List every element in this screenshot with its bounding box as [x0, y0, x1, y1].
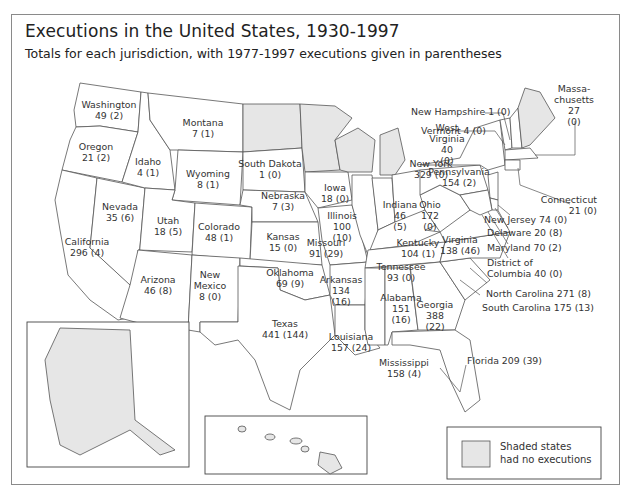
state-label-line: 100	[333, 221, 351, 232]
state-label-line: Florida 209 (39)	[467, 355, 542, 366]
state-label-line: chusetts	[554, 94, 594, 105]
state-label-line: 1 (0)	[259, 169, 281, 180]
state-label-line: Idaho	[135, 156, 161, 167]
state-label-line: 138 (46)	[440, 245, 480, 256]
state-label-line: 296 (4)	[70, 247, 104, 258]
state-label-line: 8 (0)	[199, 291, 221, 302]
state-label-line: Oklahoma	[266, 267, 314, 278]
state-label-line: Delaware 20 (8)	[487, 227, 562, 238]
state-label-line: Illinois	[327, 210, 357, 221]
state-label-line: South Carolina 175 (13)	[482, 302, 594, 313]
state-label-line: 151	[392, 303, 410, 314]
legend-line-1: Shaded states	[500, 440, 592, 453]
state-label-line: 8 (1)	[197, 179, 219, 190]
state-label-arizona: Arizona46 (8)	[140, 274, 175, 296]
state-label-line: 157 (24)	[331, 342, 371, 353]
state-label-line: 4 (1)	[137, 167, 159, 178]
state-label-new-york: New York329 (0)	[410, 158, 453, 180]
state-label-line: 93 (0)	[387, 272, 415, 283]
legend-label: Shaded states had no executions	[500, 440, 592, 466]
state-label-line: 329 (0)	[414, 169, 448, 180]
state-label-line: 15 (0)	[269, 242, 297, 253]
state-label-oregon: Oregon21 (2)	[79, 141, 113, 163]
state-label-line: 48 (1)	[205, 232, 233, 243]
state-label-line: South Dakota	[238, 158, 301, 169]
state-label-line: 104 (1)	[401, 248, 435, 259]
state-label-line: Wyoming	[186, 168, 230, 179]
state-label-line: 27	[568, 105, 580, 116]
state-label-line: Arkansas	[320, 274, 363, 285]
state-label-line: Georgia	[417, 299, 454, 310]
state-label-idaho: Idaho4 (1)	[135, 156, 161, 178]
state-label-nevada: Nevada35 (6)	[102, 201, 138, 223]
us-map: Washington49 (2)Oregon21 (2)Idaho4 (1)Mo…	[0, 0, 630, 496]
state-label-line: 46	[394, 210, 406, 221]
legend-line-2: had no executions	[500, 453, 592, 466]
state-michigan	[380, 128, 405, 175]
state-label-line: 21 (2)	[82, 152, 110, 163]
state-label-line: Washington	[81, 99, 136, 110]
state-label-north-carolina: North Carolina 271 (8)	[486, 288, 591, 299]
state-label-line: Arizona	[140, 274, 175, 285]
state-label-line: Connecticut	[541, 194, 597, 205]
state-label-line: Virginia	[442, 234, 477, 245]
state-label-line: 388	[426, 310, 444, 321]
state-label-district-of-columbia: District ofColumbia 40 (0)	[487, 257, 562, 279]
state-label-line: (16)	[331, 296, 350, 307]
state-label-line: New York	[410, 158, 453, 169]
state-label-line: Montana	[183, 117, 224, 128]
state-label-line: 134	[332, 285, 350, 296]
state-label-kansas: Kansas15 (0)	[266, 231, 299, 253]
state-label-line: 18 (0)	[321, 193, 349, 204]
state-label-line: Nevada	[102, 201, 138, 212]
state-label-line: Alabama	[380, 292, 421, 303]
state-label-line: New Hampshire 1 (0)	[411, 106, 510, 117]
state-label-massachusetts: Massa-chusetts27(0)	[554, 83, 594, 127]
state-wisconsin	[335, 128, 375, 172]
state-label-line: North Carolina 271 (8)	[486, 288, 591, 299]
state-label-connecticut: Connecticut21 (0)	[541, 194, 597, 216]
state-label-line: 441 (144)	[262, 329, 308, 340]
state-label-line: (10)	[332, 232, 351, 243]
state-label-line: Utah	[157, 215, 179, 226]
state-label-line: 35 (6)	[106, 212, 134, 223]
state-label-line: Mississippi	[379, 357, 429, 368]
state-label-california: California296 (4)	[65, 236, 110, 258]
state-label-line: Oregon	[79, 141, 113, 152]
state-label-line: 49 (2)	[95, 110, 123, 121]
state-label-line: 7 (3)	[272, 201, 294, 212]
state-label-virginia: Virginia138 (46)	[440, 234, 480, 256]
state-label-line: (22)	[425, 321, 444, 332]
state-label-line: Louisiana	[329, 331, 373, 342]
state-label-line: (0)	[567, 116, 580, 127]
state-label-vermont: Vermont 4 (0)	[421, 125, 486, 136]
state-label-line: Ohio	[419, 199, 441, 210]
state-label-line: Mexico	[194, 280, 227, 291]
state-massachusetts[interactable]	[505, 148, 538, 160]
state-label-line: Texas	[271, 318, 298, 329]
state-label-line: 172	[421, 210, 439, 221]
state-label-line: District of	[487, 257, 533, 268]
state-label-new-jersey: New Jersey 74 (0)	[484, 214, 567, 225]
state-label-line: 40	[441, 144, 453, 155]
state-north-dakota	[243, 104, 302, 152]
legend-swatch	[462, 441, 490, 467]
state-label-line: Kansas	[266, 231, 299, 242]
state-label-line: Nebraska	[261, 190, 305, 201]
state-label-line: New Jersey 74 (0)	[484, 214, 567, 225]
state-label-line: 7 (1)	[192, 128, 214, 139]
state-label-line: Columbia 40 (0)	[487, 268, 562, 279]
state-label-kentucky: Kentucky104 (1)	[397, 237, 440, 259]
state-label-line: California	[65, 236, 110, 247]
state-label-line: 46 (8)	[144, 285, 172, 296]
state-label-line: Iowa	[324, 182, 346, 193]
state-label-line: 69 (9)	[276, 278, 304, 289]
state-label-line: (0)	[423, 221, 436, 232]
state-label-line: Indiana	[383, 199, 418, 210]
state-label-iowa: Iowa18 (0)	[321, 182, 349, 204]
state-label-line: 91 (29)	[309, 248, 343, 259]
state-maine	[518, 88, 555, 148]
state-label-line: 158 (4)	[387, 368, 421, 379]
state-label-delaware: Delaware 20 (8)	[487, 227, 562, 238]
hawaii-inset	[205, 416, 367, 474]
